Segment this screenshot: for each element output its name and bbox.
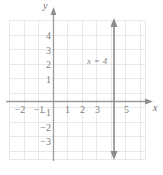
y-tick-label-4: 4 <box>40 31 51 41</box>
line-equation-label: x = 4 <box>87 57 108 66</box>
y-axis <box>51 7 57 161</box>
y-tick-label-1: 1 <box>40 75 51 85</box>
plotted-line-x-equals-4 <box>111 18 118 160</box>
x-tick-label-5: 5 <box>121 105 132 115</box>
y-tick-label-2: 2 <box>40 60 51 70</box>
y-tick-label-neg1: −1 <box>36 108 51 118</box>
graph-figure: y x −2 −1 1 2 3 5 4 3 2 1 −1 −2 −3 x = 4 <box>0 0 163 175</box>
y-tick-label-neg2: −2 <box>36 123 51 133</box>
x-tick-label-neg2: −2 <box>13 105 27 115</box>
x-tick-label-3: 3 <box>92 105 103 115</box>
x-axis-label: x <box>153 103 157 113</box>
grid-vertical-lines <box>10 20 146 160</box>
x-tick-label-2: 2 <box>77 105 88 115</box>
grid-horizontal-lines <box>9 21 145 160</box>
y-axis-label: y <box>43 1 47 11</box>
coordinate-plane <box>0 0 163 175</box>
x-tick-label-1: 1 <box>62 105 73 115</box>
y-tick-label-neg3: −3 <box>36 137 51 147</box>
y-tick-label-3: 3 <box>40 46 51 56</box>
